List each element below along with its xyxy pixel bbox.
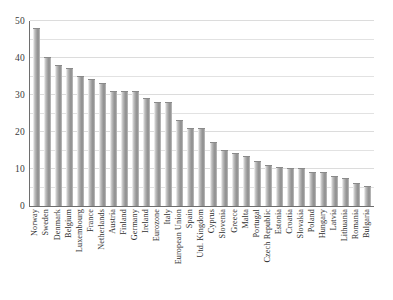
x-tick-label: Finland <box>120 209 128 235</box>
x-tick-label: Netherlands <box>98 209 106 250</box>
bar <box>210 142 217 206</box>
x-label-slot: Germany <box>130 209 141 300</box>
x-tick-label: Ireland <box>142 209 150 233</box>
x-label-slot: Hungary <box>318 209 329 300</box>
bar <box>331 176 338 206</box>
bar <box>342 178 349 206</box>
bar <box>55 65 62 206</box>
bar-slot <box>108 21 119 206</box>
bar <box>254 161 261 206</box>
bar <box>320 172 327 206</box>
x-label-slot: Ireland <box>141 209 152 300</box>
x-label-slot: Luxembourg <box>74 209 85 300</box>
bar <box>287 168 294 206</box>
bar-slot <box>185 21 196 206</box>
x-tick-label: Belgium <box>65 209 73 238</box>
x-tick-label: Hungary <box>319 209 327 238</box>
x-label-slot: Czech Republic <box>262 209 273 300</box>
x-label-slot: Poland <box>307 209 318 300</box>
bar-slot <box>230 21 241 206</box>
x-tick-label: Norway <box>31 209 39 236</box>
bar <box>265 165 272 206</box>
x-tick-label: Poland <box>308 209 316 232</box>
x-label-slot: Netherlands <box>96 209 107 300</box>
bar <box>88 79 95 206</box>
x-label-slot: Estonia <box>273 209 284 300</box>
x-tick-label: Italy <box>164 209 172 225</box>
bar-slot <box>296 21 307 206</box>
x-tick-label: Luxembourg <box>76 209 84 252</box>
bar <box>143 98 150 206</box>
x-label-slot: France <box>85 209 96 300</box>
y-tick-label: 50 <box>15 16 25 26</box>
bar-slot <box>263 21 274 206</box>
x-label-slot: Finland <box>119 209 130 300</box>
bar-slot <box>340 21 351 206</box>
x-tick-label: Denmark <box>54 209 62 240</box>
x-label-slot: Utd. Kingdom <box>196 209 207 300</box>
bar-slot <box>362 21 373 206</box>
bar-chart: 01020304050 NorwaySwedenDenmarkBelgiumLu… <box>0 0 393 300</box>
bar <box>121 91 128 206</box>
y-tick-label: 40 <box>15 53 25 63</box>
y-tick-label: 30 <box>15 90 25 100</box>
bar <box>77 76 84 206</box>
plot-area <box>29 21 374 207</box>
bar-slot <box>86 21 97 206</box>
x-label-slot: Austria <box>107 209 118 300</box>
bar-slot <box>75 21 86 206</box>
bar <box>165 102 172 206</box>
bar-slot <box>152 21 163 206</box>
y-tick-label: 10 <box>15 164 25 174</box>
bar-slot <box>130 21 141 206</box>
x-tick-label: Germany <box>131 209 139 240</box>
bar-slot <box>42 21 53 206</box>
bar <box>309 172 316 206</box>
x-label-slot: Romania <box>351 209 362 300</box>
y-axis: 01020304050 <box>0 0 29 215</box>
bar-slot <box>307 21 318 206</box>
bar <box>33 28 40 206</box>
x-label-slot: Sweden <box>41 209 52 300</box>
bar <box>154 102 161 206</box>
bar <box>298 168 305 206</box>
x-label-slot: Belgium <box>63 209 74 300</box>
x-label-slot: Eurozone <box>152 209 163 300</box>
bar <box>221 150 228 206</box>
bar-slot <box>318 21 329 206</box>
x-tick-label: Utd. Kingdom <box>197 209 205 258</box>
x-tick-label: Eurozone <box>153 209 161 241</box>
bar <box>243 156 250 206</box>
y-tick-label: 0 <box>20 201 25 211</box>
bar <box>66 68 73 206</box>
x-tick-label: Czech Republic <box>264 209 272 262</box>
x-tick-label: Sweden <box>42 209 50 236</box>
x-label-slot: Croatia <box>284 209 295 300</box>
x-label-slot: Slovenia <box>218 209 229 300</box>
x-label-slot: Norway <box>30 209 41 300</box>
x-tick-label: Malta <box>242 209 250 229</box>
bar <box>364 186 371 206</box>
x-label-slot: Denmark <box>52 209 63 300</box>
y-tick-label: 20 <box>15 127 25 137</box>
x-label-slot: Bulgaria <box>362 209 373 300</box>
x-label-slot: European Union <box>174 209 185 300</box>
x-label-slot: Lithuania <box>340 209 351 300</box>
x-label-slot: Slovakia <box>296 209 307 300</box>
x-tick-label: European Union <box>175 209 183 264</box>
bar-slot <box>219 21 230 206</box>
x-tick-label: Croatia <box>286 209 294 234</box>
bar-slot <box>329 21 340 206</box>
x-tick-label: Lithuania <box>341 209 349 241</box>
bar-slot <box>174 21 185 206</box>
bar-slot <box>208 21 219 206</box>
x-label-slot: Latvia <box>329 209 340 300</box>
bar <box>44 57 51 206</box>
bar <box>198 128 205 206</box>
bar-slot <box>285 21 296 206</box>
bar-slot <box>141 21 152 206</box>
bar <box>353 183 360 206</box>
x-label-slot: Malta <box>240 209 251 300</box>
bar-slot <box>241 21 252 206</box>
x-tick-label: Slovakia <box>297 209 305 238</box>
